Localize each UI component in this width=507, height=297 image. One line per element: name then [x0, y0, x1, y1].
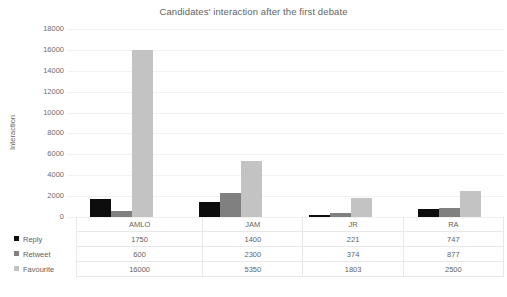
bar-ra-favourite[interactable] — [460, 191, 481, 217]
legend-swatch-icon — [14, 236, 19, 241]
table-category-header-jr: JR — [303, 217, 403, 232]
y-axis-tick-label: 6000 — [20, 150, 64, 158]
table-cell-jam-reply: 1400 — [203, 232, 303, 247]
y-axis-tick-labels: 1800016000140001200010000800060004000200… — [18, 29, 64, 217]
y-axis-tick-label: 10000 — [20, 109, 64, 117]
table-cell-amlo-favourite: 16000 — [77, 262, 203, 277]
bar-series-area — [67, 29, 504, 217]
table-cell-amlo-retweet: 600 — [77, 247, 203, 262]
table-cell-ra-retweet: 877 — [403, 247, 503, 262]
bar-jam-retweet[interactable] — [220, 193, 241, 217]
table-cell-jr-retweet: 374 — [303, 247, 403, 262]
chart-data-table: AMLOJAMJRRAReply17501400221747Retweet600… — [4, 217, 504, 277]
legend-label: Retweet — [23, 250, 51, 259]
bar-group-jr — [286, 29, 395, 217]
bar-ra-retweet[interactable] — [439, 208, 460, 217]
legend-item-favourite[interactable]: Favourite — [4, 262, 77, 277]
table-header-row: AMLOJAMJRRA — [4, 217, 504, 232]
y-axis-tick-label: 16000 — [20, 46, 64, 54]
table-category-header-ra: RA — [403, 217, 503, 232]
bar-jam-reply[interactable] — [199, 202, 220, 217]
chart-container: Candidates' interaction after the first … — [0, 0, 507, 297]
y-axis-tick-label: 2000 — [20, 192, 64, 200]
legend-label: Favourite — [23, 265, 54, 274]
table-cell-jam-favourite: 5350 — [203, 262, 303, 277]
chart-title: Candidates' interaction after the first … — [0, 6, 507, 17]
bar-jr-favourite[interactable] — [351, 198, 372, 217]
table-category-header-jam: JAM — [203, 217, 303, 232]
table-cell-amlo-reply: 1750 — [77, 232, 203, 247]
table-cell-jr-reply: 221 — [303, 232, 403, 247]
bar-jam-favourite[interactable] — [241, 161, 262, 217]
legend-item-reply[interactable]: Reply — [4, 232, 77, 247]
legend-item-retweet[interactable]: Retweet — [4, 247, 77, 262]
bar-group-jam — [176, 29, 285, 217]
bar-group-amlo — [67, 29, 176, 217]
table-cell-jam-retweet: 2300 — [203, 247, 303, 262]
y-axis-tick-label: 18000 — [20, 25, 64, 33]
table-corner-cell — [4, 217, 77, 232]
bar-amlo-reply[interactable] — [90, 199, 111, 217]
table-category-header-amlo: AMLO — [77, 217, 203, 232]
legend-label: Reply — [23, 235, 42, 244]
legend-swatch-icon — [14, 266, 19, 271]
legend-swatch-icon — [14, 251, 19, 256]
y-axis-tick-label: 12000 — [20, 88, 64, 96]
bar-amlo-favourite[interactable] — [132, 50, 153, 217]
y-axis-tick-label: 8000 — [20, 129, 64, 137]
table-row: Retweet6002300374877 — [4, 247, 504, 262]
y-axis-tick-label: 4000 — [20, 171, 64, 179]
bar-ra-reply[interactable] — [418, 209, 439, 217]
table-row: Favourite16000535018032500 — [4, 262, 504, 277]
bar-group-ra — [395, 29, 504, 217]
table-row: Reply17501400221747 — [4, 232, 504, 247]
y-axis-title: Interaction — [5, 94, 19, 170]
table-cell-ra-reply: 747 — [403, 232, 503, 247]
y-axis-tick-label: 14000 — [20, 67, 64, 75]
table-cell-jr-favourite: 1803 — [303, 262, 403, 277]
table-cell-ra-favourite: 2500 — [403, 262, 503, 277]
